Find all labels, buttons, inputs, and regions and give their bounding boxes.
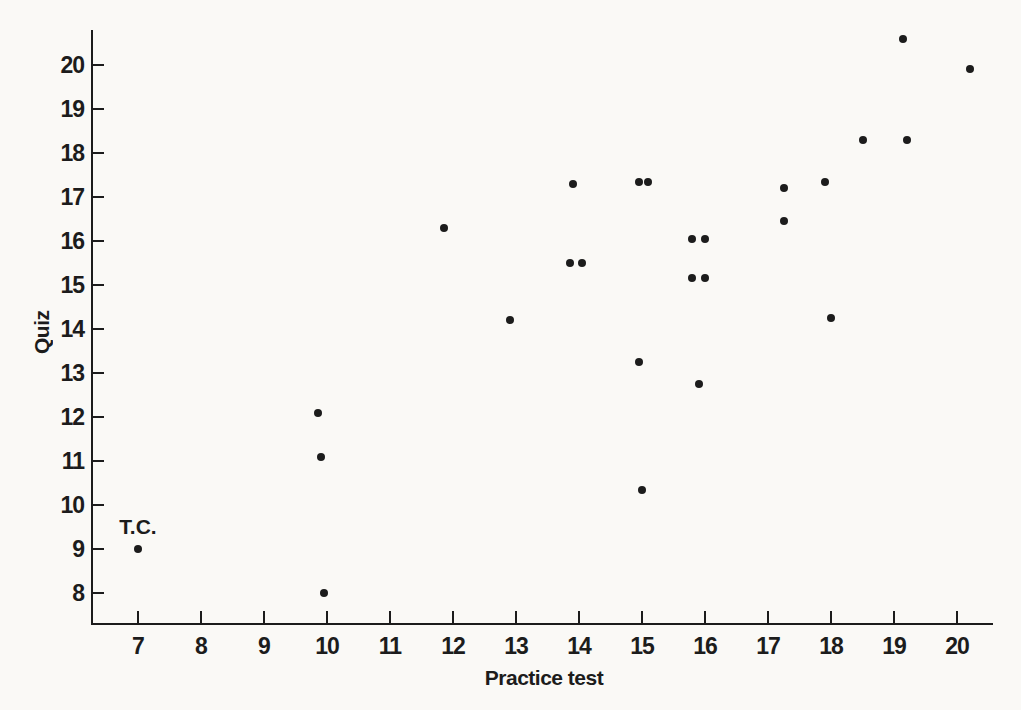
data-point [635, 358, 643, 366]
data-point [506, 316, 514, 324]
data-point [821, 178, 829, 186]
x-tick [137, 611, 139, 623]
y-tick [92, 460, 104, 462]
data-point [317, 453, 325, 461]
data-point [314, 409, 322, 417]
x-tick [578, 611, 580, 623]
y-tick-label: 9 [36, 536, 84, 562]
y-tick-label: 18 [36, 140, 84, 166]
y-tick [92, 152, 104, 154]
x-tick-label: 9 [244, 633, 284, 660]
y-tick-label: 10 [36, 492, 84, 518]
x-tick [452, 611, 454, 623]
x-tick-label: 19 [874, 633, 914, 660]
x-axis-line [91, 623, 993, 625]
data-point [566, 259, 574, 267]
data-point [903, 136, 911, 144]
data-point [695, 380, 703, 388]
x-tick [956, 611, 958, 623]
data-point [578, 259, 586, 267]
y-tick [92, 64, 104, 66]
y-tick [92, 196, 104, 198]
x-tick-label: 14 [559, 633, 599, 660]
y-tick-label: 12 [36, 404, 84, 430]
data-point [635, 178, 643, 186]
x-tick [389, 611, 391, 623]
y-tick [92, 416, 104, 418]
y-tick [92, 504, 104, 506]
y-tick-label: 16 [36, 228, 84, 254]
x-tick [767, 611, 769, 623]
data-point [644, 178, 652, 186]
y-tick [92, 284, 104, 286]
point-annotation: T.C. [103, 514, 173, 540]
x-tick-label: 13 [496, 633, 536, 660]
scatter-chart-figure: 891011121314151617181920 789101112131415… [0, 0, 1021, 710]
data-point [966, 65, 974, 73]
y-axis-title: Quiz [28, 272, 55, 392]
y-tick-label: 19 [36, 96, 84, 122]
data-point [780, 184, 788, 192]
x-tick [200, 611, 202, 623]
data-point [899, 35, 907, 43]
data-point [701, 235, 709, 243]
x-tick [263, 611, 265, 623]
x-tick-label: 20 [937, 633, 977, 660]
y-tick-label: 17 [36, 184, 84, 210]
x-tick-label: 17 [748, 633, 788, 660]
x-tick [830, 611, 832, 623]
data-point [638, 486, 646, 494]
y-tick [92, 592, 104, 594]
x-axis-title: Practice test [444, 666, 644, 690]
data-point [780, 217, 788, 225]
y-tick [92, 240, 104, 242]
data-point [134, 545, 142, 553]
data-point [688, 235, 696, 243]
x-tick-label: 8 [181, 633, 221, 660]
x-tick [893, 611, 895, 623]
y-tick-label: 20 [36, 52, 84, 78]
data-point [701, 274, 709, 282]
data-point [569, 180, 577, 188]
data-point [859, 136, 867, 144]
y-tick [92, 328, 104, 330]
x-tick [704, 611, 706, 623]
data-point [827, 314, 835, 322]
y-tick-label: 11 [36, 448, 84, 474]
x-tick-label: 15 [622, 633, 662, 660]
x-tick [326, 611, 328, 623]
data-point [688, 274, 696, 282]
x-tick-label: 16 [685, 633, 725, 660]
x-tick [515, 611, 517, 623]
y-tick [92, 548, 104, 550]
y-tick-label: 8 [36, 580, 84, 606]
x-tick-label: 7 [118, 633, 158, 660]
x-tick-label: 10 [307, 633, 347, 660]
data-point [320, 589, 328, 597]
y-tick [92, 108, 104, 110]
x-tick-label: 11 [370, 633, 410, 660]
x-tick-label: 12 [433, 633, 473, 660]
x-tick [641, 611, 643, 623]
y-tick [92, 372, 104, 374]
x-tick-label: 18 [811, 633, 851, 660]
data-point [440, 224, 448, 232]
